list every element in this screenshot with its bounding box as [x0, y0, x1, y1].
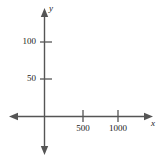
x-axis-left-arrowhead	[9, 113, 18, 120]
y-axis-bottom-arrowhead	[41, 146, 48, 155]
y-tick-label-100: 100	[12, 37, 36, 46]
x-tick-label-1000: 1000	[103, 124, 133, 133]
y-axis-group	[41, 8, 48, 155]
y-axis-label: y	[49, 4, 53, 13]
y-axis-ticks	[40, 42, 52, 79]
y-axis-top-arrowhead	[41, 8, 48, 17]
coordinate-axes-figure: 100 50 500 1000 x y	[0, 0, 164, 165]
x-tick-label-500: 500	[68, 124, 98, 133]
y-tick-label-50: 50	[12, 74, 36, 83]
x-axis-group	[9, 113, 153, 120]
x-axis-label: x	[151, 119, 155, 128]
